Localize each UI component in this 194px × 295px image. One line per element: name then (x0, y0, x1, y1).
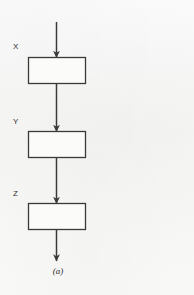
node-label-y: Y (13, 117, 19, 126)
figure-caption: (a) (46, 266, 70, 277)
node-label-x: X (13, 42, 19, 51)
flow-diagram-canvas (0, 0, 194, 295)
process-box-y[interactable] (29, 132, 86, 158)
process-box-z[interactable] (29, 204, 86, 230)
node-label-z: Z (13, 189, 18, 198)
process-box-x[interactable] (29, 58, 86, 84)
figure-panel: X Y Z (a) (0, 0, 194, 295)
